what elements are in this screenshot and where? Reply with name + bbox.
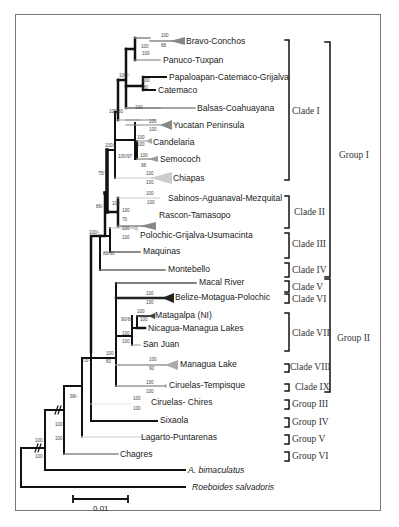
bootstrap-label: 100 bbox=[137, 309, 145, 314]
bootstrap-label: 100 bbox=[55, 422, 63, 427]
bootstrap-label: 98 bbox=[141, 163, 147, 168]
clade-label: Clade V bbox=[292, 282, 323, 292]
bootstrap-label: 100 bbox=[142, 78, 150, 83]
clade-labels: Clade I Clade II Clade III Clade IV Clad… bbox=[290, 106, 331, 392]
scale-bar-label: 0.01 bbox=[93, 504, 109, 513]
taxon-catemaco: Catemaco bbox=[158, 85, 197, 95]
taxon-san-juan: San Juan bbox=[143, 339, 180, 349]
bootstrap-label: 100 bbox=[149, 119, 157, 124]
bootstrap-label: 100 bbox=[140, 153, 148, 158]
bootstrap-label: 100 bbox=[161, 33, 169, 38]
bootstrap-label: 88 bbox=[161, 43, 167, 48]
bootstrap-label: 80 bbox=[143, 85, 149, 90]
bootstrap-label: 100 bbox=[140, 317, 148, 322]
group-labels: Group I Group II Group III Group IV Grou… bbox=[292, 150, 370, 461]
clade-label: Clade II bbox=[294, 207, 325, 217]
bootstrap-label: 90/60 bbox=[121, 317, 133, 322]
taxon-lagarto: Lagarto-Puntarenas bbox=[141, 432, 217, 442]
bootstrap-label: 100 bbox=[122, 339, 130, 344]
bootstrap-label: 100/97 bbox=[118, 154, 132, 159]
bootstrap-label: 90 bbox=[149, 366, 155, 371]
scale-bar bbox=[73, 496, 128, 502]
bootstrap-label: 100 bbox=[141, 44, 149, 49]
taxon-ciruelas-chires: Ciruelas- Chires bbox=[151, 397, 213, 407]
bootstrap-label: 100/- bbox=[119, 73, 130, 78]
taxon-ciruelas-tempisque: Ciruelas-Tempisque bbox=[169, 380, 245, 390]
bootstrap-label: 100 bbox=[122, 226, 130, 231]
bootstrap-label: 60 bbox=[106, 359, 112, 364]
taxon-matagalpa: Matagalpa (NI) bbox=[155, 310, 212, 320]
clade-label: Clade IX bbox=[295, 382, 330, 392]
bootstrap-label: 100 bbox=[122, 331, 130, 336]
phylogenetic-tree: Bravo-Conchos Panuco-Tuxpan Papaloapan-C… bbox=[0, 0, 399, 527]
taxon-belize: Belize-Motagua-Polochic bbox=[175, 292, 271, 302]
taxon-nicagua: Nicagua-Managua Lakes bbox=[148, 323, 244, 333]
taxon-rascon: Rascon-Tamasopo bbox=[159, 210, 231, 220]
bootstrap-label: 100 bbox=[149, 357, 157, 362]
taxon-balsas: Balsas-Coahuayana bbox=[197, 103, 275, 113]
bootstrap-label: 75/- bbox=[98, 171, 106, 176]
bootstrap-label: 100 bbox=[137, 135, 145, 140]
clade-label: Clade I bbox=[292, 106, 320, 116]
bootstrap-label: 100 bbox=[106, 351, 114, 356]
taxon-semococh: Semococh bbox=[160, 154, 201, 164]
clade-label: Clade IV bbox=[292, 265, 327, 275]
bootstrap-label: 100 bbox=[133, 396, 141, 401]
taxon-sixaola: Sixaola bbox=[160, 415, 188, 425]
bootstrap-label: 100 bbox=[146, 171, 154, 176]
bootstrap-label: 86/- bbox=[96, 204, 104, 209]
bootstrap-label: 100 bbox=[147, 200, 155, 205]
group-label: Group VI bbox=[292, 451, 329, 461]
taxon-panuco-tuxpan: Panuco-Tuxpan bbox=[163, 55, 224, 65]
bootstrap-label: 100 bbox=[122, 235, 130, 240]
bootstrap-label: 100 bbox=[146, 191, 154, 196]
bootstrap-label: 88/60 bbox=[103, 251, 115, 256]
bootstrap-label: 100 bbox=[146, 389, 154, 394]
group-label: Group I bbox=[339, 150, 369, 160]
group-label: Group III bbox=[292, 399, 328, 409]
bootstrap-label: 73/- bbox=[82, 358, 90, 363]
clade-label: Clade III bbox=[292, 239, 326, 249]
taxon-polochic: Polochic-Grijalva-Usumacinta bbox=[140, 230, 253, 240]
taxon-maquinas: Maquinas bbox=[143, 246, 180, 256]
bootstrap-label: 100 bbox=[142, 51, 150, 56]
bootstrap-label: 100/80 bbox=[109, 109, 123, 114]
clade-label: Clade VI bbox=[292, 294, 326, 304]
bootstrap-label: 100 bbox=[137, 142, 145, 147]
bootstrap-label: 99/- bbox=[70, 394, 78, 399]
taxon-sabinos: Sabinos-Aguanaval-Mezquital bbox=[168, 193, 282, 203]
bootstrap-label: 100 bbox=[146, 291, 154, 296]
bootstrap-label: 100 bbox=[149, 127, 157, 132]
bootstrap-label: 100 bbox=[55, 436, 63, 441]
taxon-chiapas: Chiapas bbox=[173, 173, 205, 183]
taxon-roeboides: Roeboides salvadoris bbox=[192, 482, 275, 492]
taxon-yucatan: Yucatan Peninsula bbox=[173, 120, 244, 130]
bootstrap-label: 100 bbox=[112, 201, 120, 206]
taxon-managua-lake: Managua Lake bbox=[180, 359, 237, 369]
bootstrap-label: 100 bbox=[122, 208, 130, 213]
bootstrap-label: 100 bbox=[146, 380, 154, 385]
bootstrap-label: 100 bbox=[146, 180, 154, 185]
bootstrap-label: 100 bbox=[135, 105, 143, 110]
taxon-labels: Bravo-Conchos Panuco-Tuxpan Papaloapan-C… bbox=[120, 36, 289, 492]
bootstrap-label: 100 bbox=[133, 406, 141, 411]
taxon-a-bimaculatus: A. bimaculatus bbox=[187, 465, 245, 475]
taxon-candelaria: Candelaria bbox=[153, 137, 195, 147]
bootstrap-label: 70 bbox=[122, 217, 128, 222]
taxon-chagres: Chagres bbox=[120, 449, 152, 459]
group-label: Group II bbox=[337, 333, 370, 343]
taxon-montebello: Montebello bbox=[168, 264, 210, 274]
bootstrap-label: 100/- bbox=[105, 143, 116, 148]
clade-label: Clade VII bbox=[292, 328, 330, 338]
bootstrap-label: 100/- bbox=[89, 230, 100, 235]
group-label: Group V bbox=[292, 434, 325, 444]
bootstrap-label: 100 bbox=[35, 454, 43, 459]
taxon-papaloapan: Papaloapan-Catemaco-Grijalva bbox=[169, 72, 289, 82]
taxon-bravo-conchos: Bravo-Conchos bbox=[186, 36, 245, 46]
bootstrap-label: 100 bbox=[146, 300, 154, 305]
bootstrap-label: 100 bbox=[35, 438, 43, 443]
clade-label: Clade VIII bbox=[290, 362, 331, 372]
taxon-macal: Macal River bbox=[199, 277, 245, 287]
group-label: Group IV bbox=[292, 417, 329, 427]
